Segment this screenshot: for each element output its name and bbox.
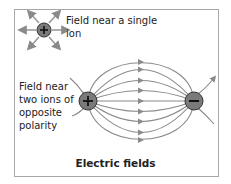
positive-ion-icon bbox=[79, 92, 97, 110]
single-ion-plus-icon bbox=[37, 23, 51, 37]
single-ion-label: Field near a single ion bbox=[66, 14, 166, 40]
diagram-caption: Electric fields bbox=[0, 157, 231, 169]
dipole-arrows bbox=[138, 59, 144, 143]
negative-ion-icon bbox=[185, 92, 203, 110]
two-ions-label: Field near two ions of opposite polarity bbox=[19, 80, 79, 132]
